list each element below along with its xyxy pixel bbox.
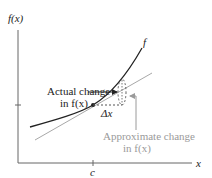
tangent-approximation-diagram: f(x) x c f Δx Actual change in f(x) Appr… [0,0,212,178]
approx-change-arrow [130,96,136,130]
delta-x-label: Δx [100,107,112,119]
actual-change-label-line2: in f(x) [60,97,88,110]
curve-label: f [143,36,148,48]
y-axis-label: f(x) [8,12,24,25]
approx-change-label-line1: Approximate change [103,130,195,142]
actual-change-label-line1: Actual change [47,85,110,97]
c-tick-label: c [90,166,95,178]
approx-change-label-line2: in f(x) [123,142,151,155]
x-axis-label: x [195,157,201,169]
